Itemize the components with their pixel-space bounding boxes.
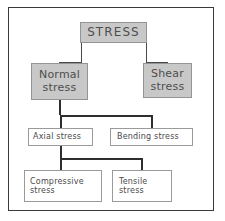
node-tensile-stress[interactable]: Tensile stress [112, 170, 172, 202]
node-compressive-stress-label-line1: Compressive [30, 177, 84, 186]
connector-normal-bus [60, 115, 152, 117]
node-shear-stress-label-line1: Shear [151, 68, 184, 81]
node-compressive-stress[interactable]: Compressive stress [24, 170, 102, 202]
node-stress-label: STRESS [87, 25, 140, 39]
node-normal-stress-label-line1: Normal [39, 69, 80, 82]
node-axial-stress-label: Axial stress [33, 132, 81, 141]
node-compressive-stress-label-line2: stress [30, 186, 55, 195]
node-shear-stress[interactable]: Shear stress [143, 63, 192, 98]
node-shear-stress-label-line2: stress [151, 81, 185, 94]
node-axial-stress[interactable]: Axial stress [28, 128, 93, 146]
node-tensile-stress-label-line1: Tensile [119, 177, 147, 186]
connector-stress-right-drop [146, 43, 147, 63]
node-tensile-stress-label-line2: stress [119, 186, 144, 195]
node-normal-stress-label-line2: stress [43, 82, 77, 95]
node-normal-stress[interactable]: Normal stress [31, 63, 88, 100]
connector-bus-to-axial [60, 115, 62, 129]
connector-stress-left-drop [81, 43, 82, 63]
connector-axial-bus [60, 158, 142, 160]
node-bending-stress[interactable]: Bending stress [110, 128, 193, 146]
connector-axial-drop [60, 146, 62, 158]
node-stress[interactable]: STRESS [80, 22, 147, 43]
connector-normal-drop [59, 100, 61, 115]
node-bending-stress-label: Bending stress [117, 132, 179, 141]
connector-bus-to-bending [151, 115, 153, 129]
stress-flowchart-diagram: STRESS Normal stress Shear stress Axial … [0, 0, 225, 221]
